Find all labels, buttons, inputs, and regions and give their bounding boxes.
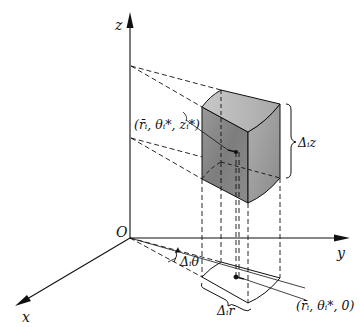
diagram-canvas: z y x O (r̄ᵢ, θᵢ*, zᵢ*) Δᵢz Δᵢθ Δᵢr (r̄ᵢ… [0, 0, 360, 327]
x-axis [15, 238, 130, 306]
origin-label: O [116, 225, 127, 239]
top-point-label: (r̄ᵢ, θᵢ*, zᵢ*) [134, 119, 200, 132]
z-axis-label: z [115, 18, 122, 32]
delta-r-label: Δᵢr [217, 305, 235, 318]
y-axis-arrow-icon [334, 235, 350, 242]
delta-z-label: Δᵢz [298, 137, 316, 150]
diagram-svg [0, 0, 360, 327]
delta-z-brace [286, 104, 296, 178]
base-point-label: (r̄ᵢ, θᵢ*, 0) [296, 300, 354, 313]
z-axis [127, 12, 134, 238]
y-axis [130, 235, 350, 242]
x-axis-arrow-icon [15, 295, 31, 306]
volume-element-solid [202, 90, 280, 203]
y-axis-label: y [337, 246, 345, 260]
x-axis-label: x [22, 310, 30, 324]
delta-theta-label: Δᵢθ [180, 256, 199, 269]
z-axis-arrow-icon [127, 12, 134, 28]
